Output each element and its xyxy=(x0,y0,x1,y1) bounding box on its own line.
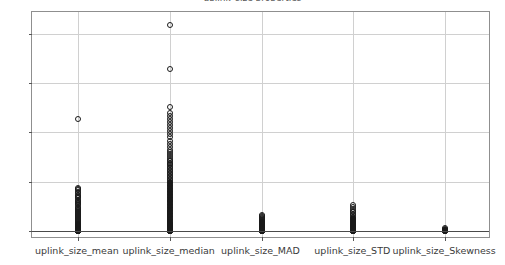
series-uplink_size_mean xyxy=(78,12,79,237)
x-tick-mark xyxy=(78,237,79,241)
series-uplink_size_Skewness xyxy=(445,12,446,237)
data-point xyxy=(167,22,173,28)
y-tick-mark xyxy=(29,132,33,133)
x-tick-mark xyxy=(170,237,171,241)
chart-figure: uplink_size properties 01000200030004000… xyxy=(0,0,505,265)
data-point xyxy=(167,104,173,110)
data-point xyxy=(167,66,173,72)
chart-title: uplink_size properties xyxy=(0,0,505,1)
data-point xyxy=(75,116,81,122)
y-gridline xyxy=(32,34,489,35)
y-gridline xyxy=(32,132,489,133)
zero-baseline xyxy=(32,231,489,232)
y-tick-mark xyxy=(29,83,33,84)
series-uplink_size_median xyxy=(170,12,171,237)
x-tick-label-1: uplink_size_median xyxy=(122,245,214,256)
y-tick-mark xyxy=(29,182,33,183)
y-gridline xyxy=(32,182,489,183)
plot-area xyxy=(31,11,490,238)
y-gridline xyxy=(32,83,489,84)
x-tick-mark xyxy=(262,237,263,241)
y-axis xyxy=(0,11,31,238)
x-tick-label-2: uplink_size_MAD xyxy=(221,245,300,256)
x-tick-mark xyxy=(353,237,354,241)
series-uplink_size_MAD xyxy=(262,12,263,237)
y-tick-mark xyxy=(29,34,33,35)
x-tick-label-0: uplink_size_mean xyxy=(35,245,119,256)
series-uplink_size_STD xyxy=(353,12,354,237)
x-tick-mark xyxy=(445,237,446,241)
x-tick-label-4: uplink_size_Skewness xyxy=(392,245,495,256)
x-tick-label-3: uplink_size_STD xyxy=(314,245,390,256)
